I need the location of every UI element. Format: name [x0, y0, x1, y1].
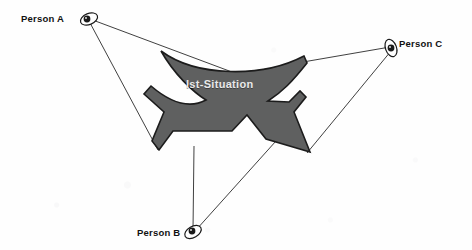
- eye-icon-pupil-glint: [190, 229, 192, 231]
- ist-situation-label: Ist-Situation: [186, 79, 253, 90]
- sightline-person-a-upper: [90, 19, 240, 75]
- sightline-person-b-left: [193, 146, 194, 230]
- sightline-person-c-lower: [307, 51, 391, 153]
- label-person-a: Person A: [21, 14, 64, 24]
- ist-situation-shape-path: [144, 51, 310, 152]
- sightline-person-c-upper: [303, 47, 390, 62]
- sight-lines-group: [89, 19, 391, 230]
- eye-icon-iris: [189, 228, 196, 235]
- ist-situation-shape: [144, 51, 310, 152]
- eye-icon-pupil-glint: [389, 46, 391, 48]
- eye-icon-person-a[interactable]: [79, 11, 100, 28]
- eye-icon-pupil-glint: [85, 17, 87, 19]
- eye-icon-person-c[interactable]: [383, 38, 399, 59]
- sightline-person-b-right: [196, 141, 276, 230]
- label-person-b: Person B: [137, 228, 180, 238]
- eye-icon-iris: [388, 45, 395, 52]
- eye-icon-iris: [84, 16, 91, 23]
- label-person-c: Person C: [399, 39, 442, 49]
- diagram-canvas: Person A Person C Person B Ist-Situation: [0, 0, 472, 250]
